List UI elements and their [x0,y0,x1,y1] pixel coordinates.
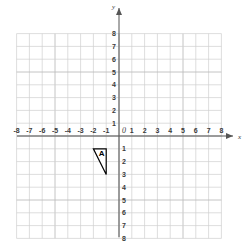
x-tick-label: -1 [103,127,109,134]
x-tick-label: 8 [219,127,223,134]
x-tick-label: 1 [130,127,134,134]
x-tick-label: 4 [168,127,172,134]
y-tick-label: 4 [122,184,126,191]
x-tick-label: -8 [13,127,19,134]
y-tick-label: 1 [122,145,126,152]
coordinate-plane-figure: -8-7-6-5-4-3-2-1123456781234567812345678… [0,0,250,250]
shape-label-a: A [99,149,105,158]
x-tick-label: 6 [194,127,198,134]
y-tick-label: 1 [112,120,116,127]
y-tick-label: 8 [112,30,116,37]
y-tick-label: 5 [122,197,126,204]
origin-label: 0 [122,126,126,135]
y-tick-label: 4 [112,81,116,88]
y-tick-label: 7 [122,222,126,229]
y-tick-label: 3 [112,94,116,101]
y-tick-label: 6 [112,56,116,63]
y-tick-label: 8 [122,235,126,242]
y-tick-label: 2 [112,107,116,114]
x-tick-label: 3 [155,127,159,134]
y-tick-label: 5 [112,69,116,76]
x-tick-label: 2 [143,127,147,134]
x-tick-label: -5 [52,127,58,134]
x-tick-label: -6 [39,127,45,134]
y-tick-label: 6 [122,209,126,216]
x-tick-label: -2 [90,127,96,134]
y-tick-label: 2 [122,158,126,165]
coordinate-plane-svg: -8-7-6-5-4-3-2-1123456781234567812345678… [0,0,250,250]
x-tick-label: 5 [181,127,185,134]
x-tick-label: -3 [77,127,83,134]
x-tick-label: -7 [26,127,32,134]
x-tick-label: 7 [207,127,211,134]
x-tick-label: -4 [65,127,71,134]
y-tick-label: 7 [112,43,116,50]
y-tick-label: 3 [122,171,126,178]
shape-annotations: A [99,149,105,158]
